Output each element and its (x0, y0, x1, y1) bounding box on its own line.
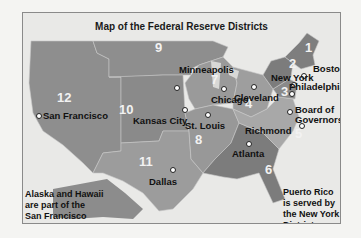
board-label-line2: Governors (295, 115, 341, 125)
district-number-10: 10 (119, 103, 133, 116)
city-label-atlanta: Atlanta (232, 149, 264, 159)
district-number-3: 3 (281, 85, 288, 98)
district-number-12: 12 (57, 91, 71, 104)
city-marker-san-francisco (36, 113, 42, 119)
city-label-kansas-city: Kansas City (133, 116, 187, 126)
alaska-hawaii-note: Alaska and Hawaii are part of the San Fr… (25, 189, 104, 224)
district-number-9: 9 (155, 41, 162, 54)
city-label-richmond: Richmond (245, 126, 291, 136)
map-frame: Map of the Federal Reserve Districts 1 2… (22, 12, 341, 224)
city-marker-cleveland (251, 84, 257, 90)
city-label-st-louis: St. Louis (185, 121, 225, 131)
city-marker-kansas-city (182, 107, 188, 113)
puerto-rico-note: Puerto Rico is served by the New York Di… (283, 187, 339, 224)
city-label-chicago: Chicago (211, 95, 248, 105)
city-marker-dallas (170, 167, 176, 173)
city-label-minneapolis: Minneapolis (179, 65, 234, 75)
city-marker-st-louis (205, 112, 211, 118)
city-marker-atlanta (246, 141, 252, 147)
city-label-san-francisco: San Francisco (43, 111, 108, 121)
district-number-11: 11 (139, 155, 153, 168)
district-number-1: 1 (305, 41, 312, 54)
city-marker-chicago (221, 86, 227, 92)
city-label-dallas: Dallas (149, 177, 177, 187)
city-label-philadelphia: Philadelphia (289, 82, 341, 92)
city-label-boston: Boston (313, 64, 341, 74)
city-marker-minneapolis (174, 85, 180, 91)
district-number-2: 2 (289, 57, 296, 70)
city-marker-board-of-governors (287, 109, 293, 115)
district-number-6: 6 (265, 163, 272, 176)
district-number-8: 8 (195, 133, 202, 146)
